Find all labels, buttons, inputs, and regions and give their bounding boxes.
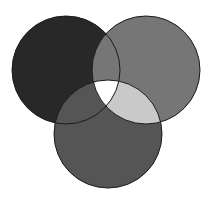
venn-canvas [0,0,211,204]
venn-diagram-figure [0,0,211,204]
